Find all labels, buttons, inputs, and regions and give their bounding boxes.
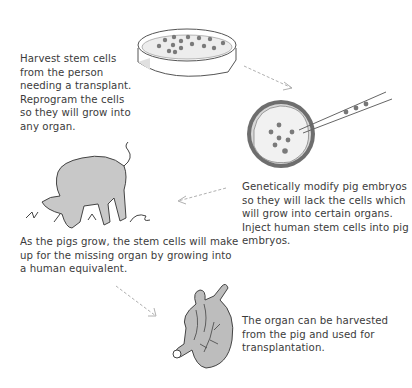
arrow-icon xyxy=(244,66,292,90)
step-harvest-text: Harvest stem cells from the person needi… xyxy=(20,52,132,134)
heart-organ-icon xyxy=(173,284,233,368)
step-grow-text: As the pigs grow, the stem cells will ma… xyxy=(20,235,240,276)
arrow-icon xyxy=(116,286,156,316)
step-transplant-text: The organ can be harvested from the pig … xyxy=(242,314,407,355)
pig-icon xyxy=(26,142,150,228)
arrow-icon xyxy=(178,188,226,204)
petri-dish-icon xyxy=(138,29,236,76)
embryo-injection-icon xyxy=(247,92,392,168)
step-modify-text: Genetically modify pig embryos so they w… xyxy=(242,180,412,248)
